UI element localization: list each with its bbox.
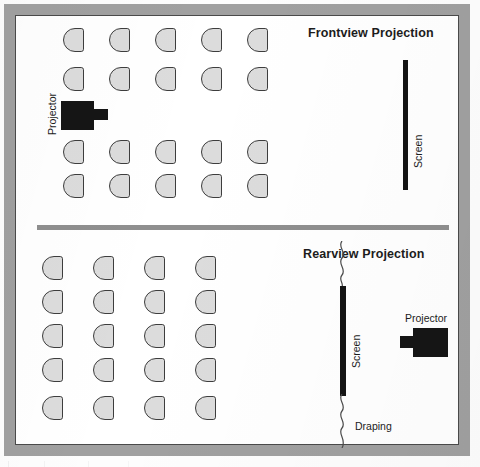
rearview-chair-r2-c1 <box>42 290 63 314</box>
rearview-chair-r3-c3 <box>144 324 165 348</box>
frontview-chair-r4-c4 <box>201 174 222 198</box>
frontview-chair-r1-c4 <box>201 28 222 52</box>
rearview-chair-r3-c4 <box>195 324 216 348</box>
rearview-draping-label: Draping <box>355 420 392 432</box>
rearview-chair-r3-c1 <box>42 324 63 348</box>
frontview-chair-r1-c1 <box>63 28 84 52</box>
rearview-chair-r5-c1 <box>42 396 63 420</box>
projector-body-icon <box>61 101 94 130</box>
frontview-screen <box>403 60 408 190</box>
rearview-chair-r4-c4 <box>195 358 216 382</box>
section-divider <box>37 225 449 230</box>
rearview-screen-label: Screen <box>350 335 362 368</box>
frontview-chair-r3-c2 <box>109 140 130 164</box>
frontview-chair-r4-c5 <box>247 174 268 198</box>
rearview-chair-r2-c2 <box>93 290 114 314</box>
rearview-projector-label: Projector <box>405 312 447 324</box>
frontview-chair-r2-c2 <box>109 67 130 91</box>
frontview-chair-r1-c2 <box>109 28 130 52</box>
rearview-chair-r1-c4 <box>195 256 216 280</box>
scan-edge-artifact <box>8 461 308 467</box>
frontview-chair-r4-c1 <box>63 174 84 198</box>
frontview-chair-r4-c3 <box>155 174 176 198</box>
projector-lens-icon <box>93 109 108 120</box>
rearview-section-title: Rearview Projection <box>303 247 424 261</box>
rearview-chair-r5-c4 <box>195 396 216 420</box>
frontview-chair-r2-c3 <box>155 67 176 91</box>
frontview-chair-r2-c1 <box>63 67 84 91</box>
frontview-chair-r2-c4 <box>201 67 222 91</box>
rearview-chair-r4-c3 <box>144 358 165 382</box>
frontview-section-title: Frontview Projection <box>308 26 434 40</box>
frontview-chair-r3-c4 <box>201 140 222 164</box>
rearview-chair-r1-c2 <box>93 256 114 280</box>
frontview-screen-label: Screen <box>412 135 424 168</box>
rearview-chair-r5-c3 <box>144 396 165 420</box>
rearview-chair-r2-c4 <box>195 290 216 314</box>
rearview-chair-r2-c3 <box>144 290 165 314</box>
frontview-chair-r1-c3 <box>155 28 176 52</box>
frontview-chair-r1-c5 <box>247 28 268 52</box>
rearview-chair-r5-c2 <box>93 396 114 420</box>
rearview-chair-r1-c1 <box>42 256 63 280</box>
projector-body-icon <box>413 328 448 357</box>
rearview-chair-r4-c1 <box>42 358 63 382</box>
frontview-chair-r4-c2 <box>109 174 130 198</box>
rearview-chair-r3-c2 <box>93 324 114 348</box>
frontview-chair-r2-c5 <box>247 67 268 91</box>
projector-lens-icon <box>400 336 415 348</box>
diagram-canvas: Frontview Projection Projector Screen Re… <box>0 0 480 467</box>
rearview-projector <box>400 328 448 357</box>
frontview-chair-r3-c1 <box>63 140 84 164</box>
frontview-chair-r3-c5 <box>247 140 268 164</box>
rearview-screen <box>340 286 346 396</box>
frontview-chair-r3-c3 <box>155 140 176 164</box>
frontview-projector <box>61 101 108 130</box>
rearview-chair-r4-c2 <box>93 358 114 382</box>
frontview-projector-label: Projector <box>46 93 58 135</box>
rearview-chair-r1-c3 <box>144 256 165 280</box>
